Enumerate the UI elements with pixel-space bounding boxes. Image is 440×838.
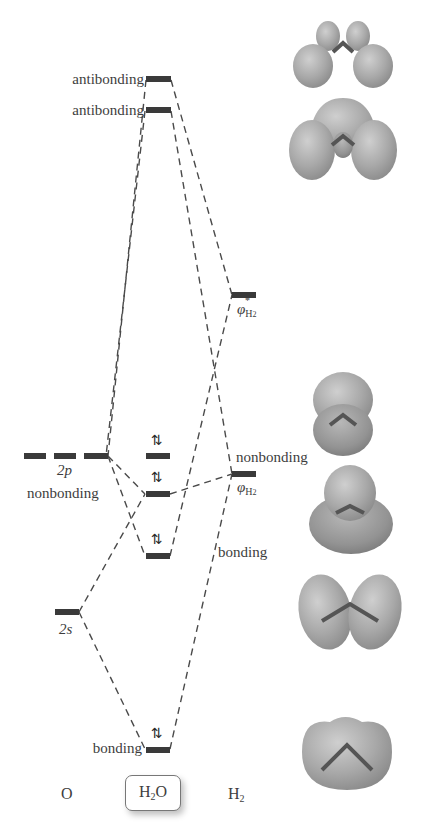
line-antibonding2-to-phi xyxy=(171,111,232,474)
water-o: O xyxy=(156,783,168,800)
level-h2o-bonding-upper xyxy=(146,553,170,559)
species-water: H2O xyxy=(139,784,167,802)
phi-sub: H xyxy=(245,308,252,319)
mo-diagram-canvas xyxy=(0,0,440,838)
level-phi-star-h2 xyxy=(232,292,256,298)
orbital-image-antibonding-2 xyxy=(289,98,397,180)
level-phi-h2 xyxy=(232,471,256,477)
orbital-image-bonding xyxy=(292,569,409,654)
label-2s: 2s xyxy=(59,622,72,637)
species-water-box: H2O xyxy=(125,775,181,811)
level-h2o-bonding-lowest xyxy=(146,747,170,753)
water-h: H xyxy=(139,783,151,800)
hydrogen-h: H xyxy=(228,785,240,802)
electron-pair-4: ⇅ xyxy=(151,726,160,740)
orbital-image-nonbonding-lone-pair xyxy=(309,465,393,554)
phi-sub: H xyxy=(245,486,252,497)
label-bonding-bottom: bonding xyxy=(60,741,142,756)
line-2s-to-bonding xyxy=(79,612,145,749)
line-antibonding2-to-2p xyxy=(106,111,145,456)
line-2p-to-nonbonding xyxy=(108,456,145,494)
species-oxygen: O xyxy=(61,786,73,802)
label-phi-star-h2: φH2* xyxy=(237,300,250,319)
line-lower-to-phi-star xyxy=(170,295,232,556)
hydrogen-sub: 2 xyxy=(240,793,245,804)
level-2p-a xyxy=(24,453,46,459)
orbital-image-bonding-lowest xyxy=(302,717,392,790)
phi-sub2: 2 xyxy=(253,488,257,497)
correlation-lines xyxy=(79,80,232,749)
level-antibonding-1 xyxy=(146,76,171,82)
line-2s-to-nonbonding xyxy=(79,494,145,612)
level-2s xyxy=(55,609,79,615)
species-hydrogen: H2 xyxy=(228,786,245,804)
label-nonbonding-right: nonbonding xyxy=(236,450,308,465)
label-bonding-right: bonding xyxy=(218,545,267,560)
line-2p-to-lower xyxy=(108,456,145,556)
level-h2o-nonbonding-top xyxy=(146,453,170,459)
phi-star-sup: * xyxy=(245,295,250,306)
electron-pair-2: ⇅ xyxy=(151,470,160,484)
label-nonbonding-left: nonbonding xyxy=(27,486,99,501)
level-2p-c xyxy=(84,453,108,459)
line-nonbonding-to-phi xyxy=(170,474,232,494)
level-h2o-nonbonding-mid xyxy=(146,491,170,497)
phi-sub2: 2 xyxy=(253,310,257,319)
level-antibonding-2 xyxy=(146,107,171,113)
label-antibonding-2: antibonding xyxy=(50,103,144,118)
level-2p-b xyxy=(54,453,76,459)
label-2p: 2p xyxy=(57,463,72,478)
energy-levels xyxy=(24,76,256,753)
electron-pair-3: ⇅ xyxy=(151,532,160,546)
orbital-image-antibonding-1 xyxy=(293,21,393,88)
orbital-image-nonbonding xyxy=(313,372,373,456)
line-antibonding1-to-phi-star xyxy=(171,80,232,295)
label-phi-h2: φH2 xyxy=(237,480,257,497)
electron-pair-1: ⇅ xyxy=(151,433,160,447)
label-antibonding-1: antibonding xyxy=(58,72,144,87)
